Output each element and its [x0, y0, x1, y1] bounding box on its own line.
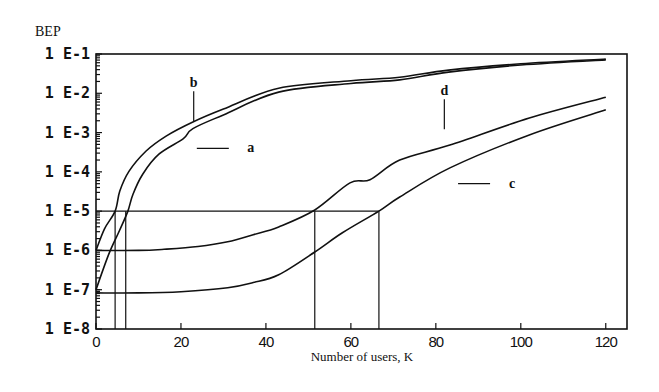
curve-a — [96, 59, 606, 250]
x-tick-label: 80 — [428, 333, 443, 350]
y-tick-label: 1 E-4 — [45, 163, 90, 181]
curves — [96, 59, 606, 293]
y-tick-label: 1 E-1 — [45, 45, 90, 63]
x-tick-label: 0 — [92, 333, 100, 350]
annotation-label-a: a — [247, 140, 254, 155]
y-tick-label: 1 E-3 — [45, 124, 90, 142]
x-axis-title: Number of users, K — [311, 349, 414, 364]
x-tick-label: 100 — [510, 333, 533, 350]
x-tick-label: 20 — [174, 333, 189, 350]
reference-lines — [96, 211, 379, 329]
annotation-label-c: c — [509, 176, 515, 191]
y-tick-label: 1 E-8 — [45, 320, 90, 338]
y-tick-label: 1 E-5 — [45, 202, 90, 220]
x-tick-label: 60 — [344, 333, 359, 350]
y-tick-label: 1 E-6 — [45, 241, 90, 259]
annotation-label-b: b — [190, 75, 198, 90]
annotation-label-d: d — [440, 83, 448, 98]
curve-b — [96, 60, 606, 290]
y-axis-title: BEP — [35, 24, 61, 39]
annotations: badc — [190, 75, 515, 190]
x-axis-ticks: 020406080100120 — [92, 323, 617, 350]
y-tick-label: 1 E-2 — [45, 84, 90, 102]
x-tick-label: 40 — [259, 333, 274, 350]
bep-chart: BEP Number of users, K 1 E-11 E-21 E-31 … — [0, 0, 659, 392]
y-tick-label: 1 E-7 — [45, 281, 90, 299]
plot-frame — [96, 54, 627, 329]
curve-c — [96, 110, 606, 293]
y-axis-ticks: 1 E-11 E-21 E-31 E-41 E-51 E-61 E-71 E-8 — [45, 45, 102, 338]
x-tick-label: 120 — [595, 333, 618, 350]
